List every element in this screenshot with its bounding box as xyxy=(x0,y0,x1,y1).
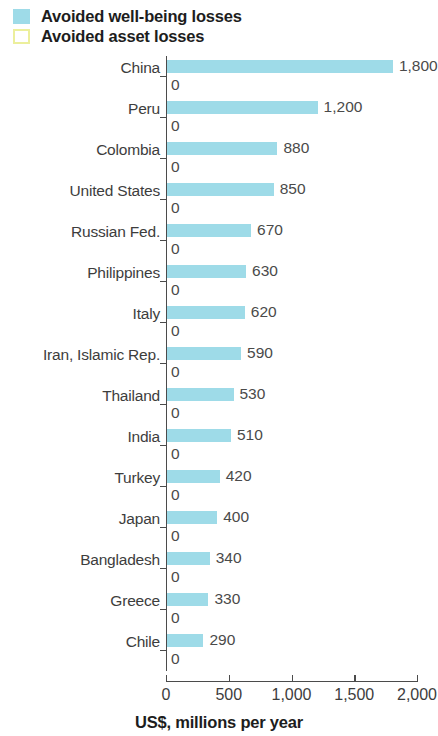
bar-well-being xyxy=(167,552,210,565)
chart-row: Japan4000 xyxy=(0,507,438,548)
chart-row: Italy6200 xyxy=(0,302,438,343)
bar-well-being xyxy=(167,429,231,442)
bar-value-asset: 0 xyxy=(171,197,180,219)
y-axis-tick xyxy=(160,445,166,446)
chart-row: Peru1,2000 xyxy=(0,97,438,138)
bar-well-being xyxy=(167,593,208,606)
bar-well-being xyxy=(167,306,245,319)
category-label: Thailand xyxy=(0,386,160,406)
bar-value-asset: 0 xyxy=(171,402,180,424)
legend-item-asset-losses: Avoided asset losses xyxy=(13,26,438,46)
bar-asset xyxy=(167,366,168,379)
chart-row: Thailand5300 xyxy=(0,384,438,425)
x-axis-title: US$, millions per year xyxy=(0,713,438,732)
y-axis-tick xyxy=(160,240,166,241)
chart-row: Philippines6300 xyxy=(0,261,438,302)
bar-value-well-being: 620 xyxy=(251,301,277,323)
category-label: Italy xyxy=(0,304,160,324)
chart-row: Turkey4200 xyxy=(0,466,438,507)
bar-asset xyxy=(167,612,168,625)
bar-value-well-being: 290 xyxy=(209,629,235,651)
y-axis-tick xyxy=(160,76,166,77)
x-axis-tick xyxy=(354,675,355,681)
bar-asset xyxy=(167,325,168,338)
bar-well-being xyxy=(167,511,217,524)
bar-value-well-being: 340 xyxy=(216,547,242,569)
y-axis-tick xyxy=(160,322,166,323)
y-axis-tick xyxy=(160,158,166,159)
legend-label-well-being: Avoided well-being losses xyxy=(41,7,242,26)
bar-value-well-being: 510 xyxy=(237,424,263,446)
bar-value-well-being: 330 xyxy=(214,588,240,610)
bar-well-being xyxy=(167,101,318,114)
bar-asset xyxy=(167,120,168,133)
legend-swatch-asset-icon xyxy=(13,29,30,44)
bar-value-asset: 0 xyxy=(171,320,180,342)
bar-value-well-being: 670 xyxy=(257,219,283,241)
chart-row: China1,8000 xyxy=(0,56,438,97)
chart-row: Russian Fed.6700 xyxy=(0,220,438,261)
y-axis-tick xyxy=(160,486,166,487)
bar-value-well-being: 880 xyxy=(283,137,309,159)
bar-asset xyxy=(167,243,168,256)
category-label: Russian Fed. xyxy=(0,222,160,242)
bar-well-being xyxy=(167,60,393,73)
bar-value-asset: 0 xyxy=(171,361,180,383)
y-axis-tick xyxy=(160,527,166,528)
y-axis-tick xyxy=(160,404,166,405)
chart-row: Chile2900 xyxy=(0,630,438,671)
bar-value-asset: 0 xyxy=(171,115,180,137)
category-label: Philippines xyxy=(0,263,160,283)
bar-value-asset: 0 xyxy=(171,238,180,260)
category-label: China xyxy=(0,58,160,78)
category-label: United States xyxy=(0,181,160,201)
category-label: Turkey xyxy=(0,468,160,488)
bar-asset xyxy=(167,284,168,297)
category-label: Iran, Islamic Rep. xyxy=(0,345,160,365)
bar-asset xyxy=(167,448,168,461)
bar-value-well-being: 630 xyxy=(252,260,278,282)
bar-value-asset: 0 xyxy=(171,443,180,465)
legend-label-asset: Avoided asset losses xyxy=(41,27,204,46)
bar-asset xyxy=(167,202,168,215)
x-axis-tick xyxy=(292,675,293,681)
bar-well-being xyxy=(167,388,234,401)
bar-asset xyxy=(167,530,168,543)
bar-value-asset: 0 xyxy=(171,566,180,588)
bar-value-well-being: 850 xyxy=(280,178,306,200)
x-axis-tick-label: 0 xyxy=(162,686,171,704)
y-axis-tick xyxy=(160,568,166,569)
bar-well-being xyxy=(167,634,203,647)
bar-asset xyxy=(167,571,168,584)
bar-asset xyxy=(167,161,168,174)
bar-value-asset: 0 xyxy=(171,648,180,670)
bar-well-being xyxy=(167,142,277,155)
bar-value-well-being: 420 xyxy=(226,465,252,487)
bar-value-asset: 0 xyxy=(171,74,180,96)
bar-value-well-being: 1,200 xyxy=(324,96,363,118)
category-label: Greece xyxy=(0,591,160,611)
bar-well-being xyxy=(167,470,220,483)
category-label: Chile xyxy=(0,632,160,652)
chart-plot-area: China1,8000Peru1,2000Colombia8800United … xyxy=(0,56,438,681)
legend-item-well-being-losses: Avoided well-being losses xyxy=(13,6,438,26)
category-label: Japan xyxy=(0,509,160,529)
bar-asset xyxy=(167,489,168,502)
y-axis-tick xyxy=(160,363,166,364)
y-axis-tick xyxy=(160,609,166,610)
y-axis-tick xyxy=(160,199,166,200)
bar-value-asset: 0 xyxy=(171,156,180,178)
bar-well-being xyxy=(167,265,246,278)
bar-value-asset: 0 xyxy=(171,607,180,629)
bar-value-asset: 0 xyxy=(171,484,180,506)
bar-value-well-being: 400 xyxy=(223,506,249,528)
bar-value-well-being: 1,800 xyxy=(399,55,438,77)
bar-well-being xyxy=(167,347,241,360)
chart-row: Iran, Islamic Rep.5900 xyxy=(0,343,438,384)
bar-value-well-being: 530 xyxy=(240,383,266,405)
category-label: India xyxy=(0,427,160,447)
bar-asset xyxy=(167,407,168,420)
chart-row: Bangladesh3400 xyxy=(0,548,438,589)
y-axis-tick xyxy=(160,117,166,118)
x-axis-line xyxy=(166,681,418,682)
